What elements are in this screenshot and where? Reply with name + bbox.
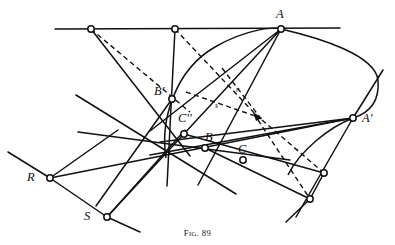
line-left-diag-1 xyxy=(76,95,236,194)
label-s-axis: s xyxy=(215,102,218,110)
solid-line-group xyxy=(8,28,383,232)
point-right-upper-node xyxy=(321,170,327,176)
conic-curve-group xyxy=(165,28,378,175)
label-r-axis: r xyxy=(236,86,239,94)
point-R xyxy=(47,175,53,181)
figure-caption: FIG. 89 xyxy=(0,228,395,238)
label-C-double-prime: C'' xyxy=(178,112,192,125)
line-R-to-S xyxy=(50,178,107,217)
caption-text: FIG. 89 xyxy=(184,228,211,238)
point-A-prime xyxy=(350,115,356,121)
label-C: C xyxy=(238,143,246,156)
point-right-lower-node xyxy=(307,196,313,202)
line-rightnodes xyxy=(310,173,324,199)
point-C-double-prime xyxy=(181,131,187,137)
line-right-through-ray xyxy=(286,199,310,222)
label-R: R xyxy=(27,171,35,184)
point-top-left-node xyxy=(88,26,94,32)
point-B xyxy=(202,145,208,151)
line-topmid-vertical xyxy=(167,29,175,186)
figure-89-diagram xyxy=(0,0,395,245)
dash-s-axis xyxy=(186,92,258,117)
point-top-mid-node xyxy=(172,26,178,32)
conic-through-A-Aprime-Bprime xyxy=(165,28,378,175)
top-horizontal-line xyxy=(55,28,340,29)
line-A-to-Bprime xyxy=(150,29,281,131)
point-B-prime xyxy=(169,96,175,102)
label-A-prime: A' xyxy=(362,112,372,125)
point-C xyxy=(240,157,246,163)
label-B-prime: B' xyxy=(154,85,164,98)
label-A: A xyxy=(276,8,284,21)
label-B: B xyxy=(205,131,213,144)
point-A xyxy=(278,26,284,32)
point-pole-point xyxy=(253,112,262,121)
point-S xyxy=(104,214,110,220)
label-S: S xyxy=(84,210,90,223)
